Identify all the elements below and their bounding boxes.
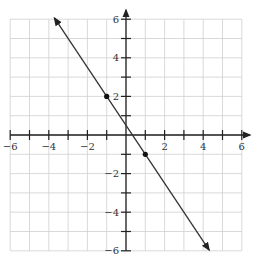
y-tick-label: 4	[113, 52, 119, 63]
line-series	[55, 18, 209, 250]
y-tick-label: 6	[113, 14, 119, 25]
y-tick-label: −2	[104, 168, 119, 179]
y-tick-label: −6	[104, 245, 119, 256]
x-tick-label: −2	[80, 141, 95, 152]
x-tick-label: −4	[41, 141, 56, 152]
data-point	[143, 152, 148, 157]
x-tick-label: 4	[200, 141, 206, 152]
y-tick-label: −4	[104, 207, 119, 218]
x-tick-label: 2	[161, 141, 167, 152]
graph-line	[55, 18, 209, 250]
y-tick-label: 2	[113, 91, 119, 102]
x-tick-label: −6	[3, 141, 18, 152]
data-point	[104, 94, 109, 99]
coordinate-plane: −6−4−2246642−2−4−6	[0, 0, 253, 266]
x-tick-label: 6	[239, 141, 245, 152]
